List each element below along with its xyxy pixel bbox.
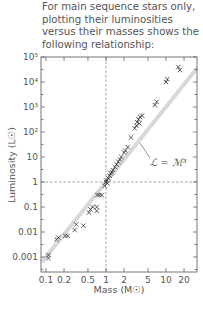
x-tick-label: 5 bbox=[145, 275, 151, 285]
data-point bbox=[81, 223, 85, 227]
x-tick-label: 10 bbox=[160, 275, 172, 285]
data-point bbox=[90, 205, 94, 209]
x-tick-label: 0.2 bbox=[57, 275, 71, 285]
data-point bbox=[95, 209, 99, 213]
y-tick-label: 0.01 bbox=[18, 227, 38, 237]
y-axis-label: Luminosity (L☉) bbox=[6, 127, 17, 203]
data-point bbox=[118, 157, 122, 161]
data-point bbox=[100, 193, 104, 197]
y-tick-label: 1 bbox=[32, 177, 38, 187]
data-point bbox=[140, 113, 144, 117]
data-point bbox=[72, 228, 76, 232]
fit-line bbox=[0, 68, 203, 280]
data-point bbox=[74, 222, 78, 226]
y-tick-label: 10² bbox=[23, 127, 38, 137]
data-point bbox=[137, 121, 141, 125]
data-point bbox=[66, 234, 70, 238]
y-tick-label: 10⁵ bbox=[23, 52, 38, 62]
x-tick-label: 20 bbox=[178, 275, 190, 285]
x-tick-label: 0.1 bbox=[39, 275, 53, 285]
annotation-leader bbox=[140, 143, 150, 158]
data-point bbox=[95, 205, 99, 209]
y-tick-label: 0.001 bbox=[12, 252, 38, 262]
y-tick-label: 10⁴ bbox=[23, 77, 38, 87]
relation-label: ℒ = ℳ³ bbox=[150, 157, 187, 168]
y-tick-label: 10³ bbox=[23, 102, 38, 112]
data-point bbox=[119, 155, 123, 159]
data-point bbox=[129, 135, 133, 139]
mass-luminosity-chart: 0.10.20.51251020 0.0010.010.111010²10³10… bbox=[0, 0, 203, 320]
y-tick-label: 0.1 bbox=[24, 202, 38, 212]
y-tick-label: 10 bbox=[27, 152, 39, 162]
x-axis-label: Mass (M☉) bbox=[93, 284, 144, 295]
